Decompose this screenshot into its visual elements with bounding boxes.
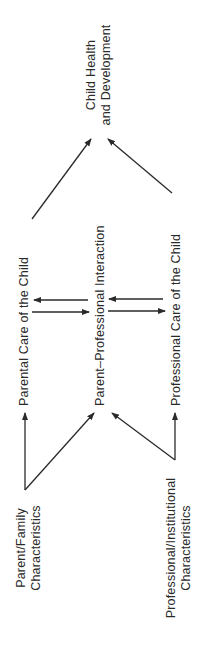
node-professional-institutional-line1: Professional/Institutional — [164, 464, 179, 632]
node-parental-care: Parental Care of the Child — [17, 257, 32, 406]
node-professional-institutional-line2: Characteristics — [179, 464, 194, 632]
node-professional-institutional: Professional/Institutional Characteristi… — [164, 464, 194, 632]
node-professional-care: Professional Care of the Child — [169, 234, 184, 406]
node-parent-family-line2: Characteristics — [29, 496, 44, 600]
node-parent-family-line1: Parent/Family — [14, 496, 29, 600]
node-child-health-line2: and Development — [99, 19, 114, 131]
arrow-institutional-to-interaction — [112, 413, 175, 460]
node-child-health-line1: Child Health — [84, 19, 99, 131]
node-child-health: Child Health and Development — [84, 19, 114, 131]
node-parent-professional-interaction: Parent–Professional Interaction — [93, 225, 108, 406]
arrow-parental-to-outcome — [32, 139, 91, 219]
node-parent-family: Parent/Family Characteristics — [14, 496, 44, 600]
arrow-family-to-interaction — [25, 413, 94, 490]
arrow-professional-to-outcome — [108, 139, 172, 193]
